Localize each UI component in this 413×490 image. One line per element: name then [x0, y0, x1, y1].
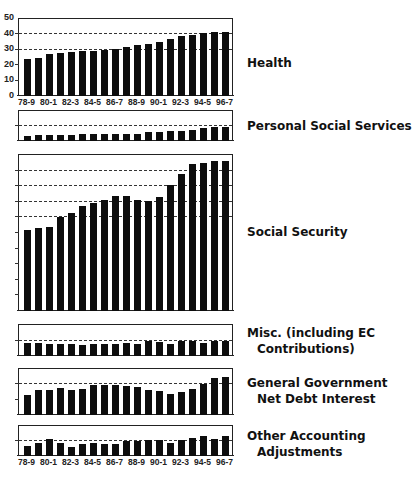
- x-axis-label: 94-5: [194, 457, 211, 467]
- health-chart: [18, 18, 233, 96]
- bar: [57, 443, 65, 456]
- bar: [46, 227, 54, 311]
- bar: [79, 134, 87, 141]
- oaa-title-line1: Other Accounting: [247, 429, 366, 443]
- bar: [156, 132, 164, 141]
- bar: [46, 439, 54, 456]
- ggndi-title-line2: Net Debt Interest: [247, 391, 387, 407]
- bar: [211, 127, 219, 141]
- bar: [79, 345, 87, 356]
- x-axis-label: 80-1: [40, 97, 57, 107]
- bar: [156, 42, 164, 96]
- bar: [167, 39, 175, 96]
- misc-title-line1: Misc. (including EC: [247, 326, 375, 340]
- bar: [68, 390, 76, 415]
- bar: [189, 35, 197, 96]
- x-axis-label: 78-9: [18, 97, 35, 107]
- bar: [68, 52, 76, 96]
- bar: [90, 443, 98, 456]
- other-accounting-adjustments-chart: [18, 425, 233, 456]
- bar: [145, 132, 153, 141]
- bar: [79, 51, 87, 96]
- bar: [123, 343, 131, 356]
- misc-title: Misc. (including EC Contributions): [247, 325, 375, 357]
- x-axis-label: 90-1: [150, 97, 167, 107]
- bar: [123, 134, 131, 142]
- bar: [90, 203, 98, 311]
- bar: [134, 134, 142, 142]
- bar: [123, 47, 131, 96]
- bar: [112, 134, 120, 142]
- bar: [145, 390, 153, 415]
- health-title: Health: [247, 55, 292, 71]
- y-tick: [15, 399, 19, 400]
- pss-title-text: Personal Social Services: [247, 119, 412, 133]
- y-tick: [15, 64, 19, 65]
- bar: [134, 45, 142, 96]
- reference-dashed-line: [19, 125, 232, 126]
- health-x-axis-labels: 78-980-182-384-586-788-990-192-394-596-7: [18, 97, 233, 109]
- bar: [222, 127, 230, 141]
- bar: [68, 447, 76, 456]
- x-axis-label: 86-7: [106, 457, 123, 467]
- ss-title-text: Social Security: [247, 225, 348, 239]
- y-tick: [15, 248, 19, 249]
- x-axis-label: 82-3: [62, 97, 79, 107]
- bar: [79, 389, 87, 415]
- bar: [200, 33, 208, 96]
- misc-title-line2: Contributions): [247, 341, 375, 357]
- bar: [222, 32, 230, 96]
- ggndi-title: General Government Net Debt Interest: [247, 375, 387, 407]
- bar: [156, 342, 164, 356]
- bar: [35, 58, 43, 97]
- bar: [189, 130, 197, 141]
- bar: [178, 36, 186, 96]
- bar: [112, 444, 120, 456]
- bar: [46, 390, 54, 415]
- bar: [189, 341, 197, 356]
- pss-chart: [18, 110, 233, 141]
- bar: [112, 196, 120, 311]
- bar: [79, 206, 87, 311]
- bar: [134, 200, 142, 311]
- y-tick: [15, 294, 19, 295]
- bar: [200, 163, 208, 311]
- bar: [189, 389, 197, 415]
- y-tick: [15, 232, 19, 233]
- bar: [134, 387, 142, 415]
- bar: [134, 441, 142, 456]
- y-axis-label: 50: [0, 12, 14, 22]
- bar: [134, 344, 142, 356]
- bar: [35, 135, 43, 141]
- bar: [90, 51, 98, 96]
- x-axis-label: 92-3: [172, 97, 189, 107]
- bar: [156, 440, 164, 456]
- bar: [101, 385, 109, 415]
- y-axis-label: 30: [0, 43, 14, 53]
- bar: [123, 196, 131, 311]
- bar: [46, 135, 54, 141]
- bar: [222, 436, 230, 456]
- bar: [101, 444, 109, 456]
- bar: [24, 343, 32, 356]
- social-security-chart: [18, 154, 233, 311]
- bar: [145, 44, 153, 96]
- x-axis-label: 86-7: [106, 97, 123, 107]
- bar: [68, 213, 76, 311]
- x-axis-label: 90-1: [150, 457, 167, 467]
- bar: [24, 395, 32, 415]
- bar: [167, 443, 175, 457]
- bar: [211, 439, 219, 456]
- bar: [178, 131, 186, 142]
- x-axis-label: 96-7: [216, 457, 233, 467]
- x-axis-label: 80-1: [40, 457, 57, 467]
- bar: [189, 164, 197, 311]
- bar: [101, 134, 109, 141]
- bar: [178, 392, 186, 415]
- x-axis-label: 82-3: [62, 457, 79, 467]
- bar: [156, 391, 164, 415]
- bar: [79, 444, 87, 456]
- bar: [167, 344, 175, 356]
- x-axis-label: 92-3: [172, 457, 189, 467]
- pss-title: Personal Social Services: [247, 118, 412, 134]
